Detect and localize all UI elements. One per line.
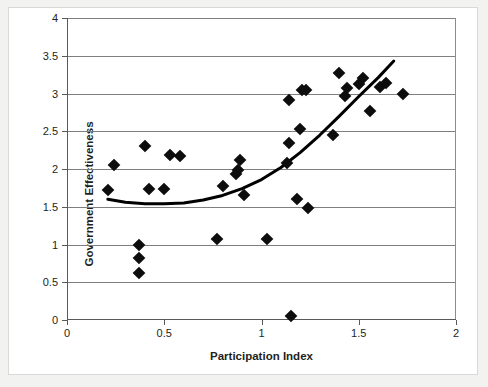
data-point-marker — [216, 180, 229, 193]
gridline — [67, 282, 456, 283]
data-point-marker — [101, 184, 114, 197]
data-point-marker — [133, 267, 146, 280]
x-tick-mark — [262, 320, 263, 325]
gridline — [67, 18, 456, 19]
data-point-marker — [238, 189, 251, 202]
y-tick-label: 2 — [52, 163, 58, 175]
data-point-marker — [142, 182, 155, 195]
x-tick-label: 0 — [64, 327, 70, 339]
plot-area: 00.511.522.533.54 00.511.52 — [67, 18, 456, 320]
data-point-marker — [302, 201, 315, 214]
y-tick-label: 2.5 — [43, 125, 58, 137]
y-tick-label: 3.5 — [43, 50, 58, 62]
x-tick-label: 2 — [453, 327, 459, 339]
data-point-marker — [138, 140, 151, 153]
x-tick-label: 1.5 — [351, 327, 366, 339]
x-tick-mark — [164, 320, 165, 325]
x-tick-mark — [359, 320, 360, 325]
x-tick-label: 1 — [258, 327, 264, 339]
gridline — [67, 131, 456, 132]
y-tick-label: 0.5 — [43, 276, 58, 288]
data-point-marker — [294, 123, 307, 136]
x-axis-line — [67, 319, 456, 320]
y-tick-label: 0 — [52, 314, 58, 326]
data-point-marker — [282, 136, 295, 149]
y-tick-label: 1 — [52, 239, 58, 251]
data-point-marker — [282, 93, 295, 106]
data-point-marker — [133, 252, 146, 265]
x-tick-mark — [67, 320, 68, 325]
x-axis-label: Participation Index — [67, 350, 456, 362]
y-tick-label: 1.5 — [43, 201, 58, 213]
x-tick-mark — [456, 320, 457, 325]
gridline — [67, 169, 456, 170]
data-point-marker — [397, 87, 410, 100]
right-axis-line — [455, 18, 456, 320]
y-tick-label: 4 — [52, 12, 58, 24]
y-axis-line — [67, 18, 68, 320]
gridline — [67, 207, 456, 208]
data-point-marker — [280, 157, 293, 170]
gridline — [67, 245, 456, 246]
data-point-marker — [133, 238, 146, 251]
gridline — [67, 56, 456, 57]
data-point-marker — [364, 104, 377, 117]
chart-figure: Government Effectiveness Participation I… — [0, 0, 488, 387]
data-point-marker — [290, 193, 303, 206]
data-point-marker — [158, 183, 171, 196]
y-tick-label: 3 — [52, 88, 58, 100]
data-point-marker — [333, 67, 346, 80]
data-point-marker — [173, 150, 186, 163]
x-tick-label: 0.5 — [157, 327, 172, 339]
